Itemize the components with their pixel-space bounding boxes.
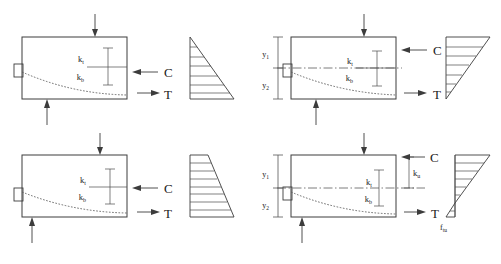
tension-arrow [404,90,427,96]
support-reaction-arrow [313,99,319,125]
y-upper-label: y1 [262,50,269,60]
compression-label: C [164,181,173,196]
support-reaction-arrow [29,217,35,243]
compression-label: C [164,65,173,80]
tension-arrow [137,90,160,96]
compression-arrow [401,154,425,160]
load-arrow-down [92,14,98,37]
tension-label: T [433,87,441,102]
load-arrow-down [361,133,367,155]
ku-label: ku [413,168,420,179]
support-reaction-arrow [299,217,305,243]
compression-arrow [132,185,158,191]
compression-arrow [132,69,158,75]
tension-label: T [164,87,172,102]
y-dimension-line [273,155,283,217]
load-arrow-down [97,133,103,155]
beam-section [22,37,127,99]
load-arrow-down [361,14,367,37]
figure-root: kt kb C T [0,0,501,264]
panel-bottom-left: kt kb C T [0,132,250,264]
tension-label: T [164,206,172,221]
tension-arrow [137,209,160,215]
beam-section [291,155,396,217]
stress-block-triangle [446,37,490,99]
ftu-label: ftu [440,223,447,233]
stress-block-trapezoid [190,155,234,217]
stress-block-triangle [190,37,234,99]
y-lower-label: y2 [262,201,269,211]
compression-label: C [430,150,439,165]
panel-bottom-right: y1 y2 kt kb ku C [251,132,501,264]
tension-label: T [431,206,439,221]
panel-top-right: y1 y2 kt kb C T [251,0,501,132]
y-upper-label: y1 [262,170,269,180]
y-dimension-line [273,37,283,99]
panel-top-left: kt kb C T [0,0,250,132]
support-reaction-arrow [44,99,50,125]
y-lower-label: y2 [262,81,269,91]
compression-arrow [401,47,427,53]
stress-block-bilinear [446,155,490,217]
tension-arrow [404,209,426,215]
compression-label: C [433,43,442,58]
